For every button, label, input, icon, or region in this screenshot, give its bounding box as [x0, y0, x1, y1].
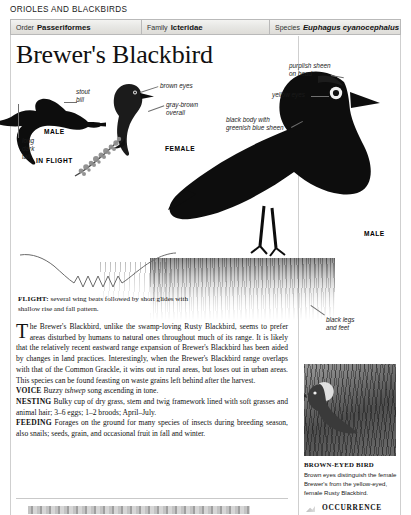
intro-paragraph: The Brewer's Blackbird, unlike the swamp… — [16, 322, 288, 386]
flight-caption: FLIGHT: several wing beats followed by s… — [18, 295, 198, 314]
body-bottom-rule — [16, 498, 288, 499]
taxonomy-order-value: Passeriformes — [37, 23, 91, 32]
leader-line-long-dark-tail — [18, 104, 19, 138]
label-male-in-flight: MALE — [44, 128, 65, 135]
voice-label: VOICE — [16, 386, 42, 395]
voice-pre: Buzzy — [42, 386, 65, 395]
range-map-strip — [28, 506, 250, 514]
label-in-flight: IN FLIGHT — [36, 157, 73, 164]
callout-stout-bill: stout bill — [76, 88, 90, 104]
taxonomy-species-value: Euphagus cyanocephalus — [303, 23, 399, 32]
taxonomy-species-cell: Species Euphagus cyanocephalus — [269, 20, 400, 34]
leader-line-yellow-eyes — [311, 96, 329, 97]
taxonomy-family-label: Family — [147, 24, 168, 31]
nesting-paragraph: NESTING Bulky cup of dry grass, stem and… — [16, 397, 288, 418]
title-left-rule — [10, 36, 11, 100]
callout-long-dark-tail: long dark tail — [22, 137, 34, 162]
feeding-text: Forages on the ground for many species o… — [16, 418, 288, 438]
voice-paragraph: VOICE Buzzy tshwep song ascending in ton… — [16, 386, 288, 397]
taxonomy-species-label: Species — [275, 24, 300, 31]
taxonomy-bar: Order Passeriformes Family Icteridae Spe… — [10, 19, 401, 35]
feeding-label: FEEDING — [16, 418, 52, 427]
callout-black-legs: black legs and feet — [326, 316, 354, 332]
leader-line-stout-bill — [64, 102, 77, 103]
occurrence-heading: OCCURRENCE — [304, 503, 400, 512]
photo-caption-heading: BROWN-EYED BIRD — [304, 461, 374, 468]
flight-pattern-diagram — [18, 252, 178, 292]
nesting-label: NESTING — [16, 397, 51, 406]
flowering-branch-illustration — [73, 132, 143, 180]
species-account-text: The Brewer's Blackbird, unlike the swamp… — [16, 322, 288, 440]
taxonomy-order-label: Order — [16, 24, 34, 31]
running-head: ORIOLES AND BLACKBIRDS — [10, 5, 127, 14]
taxonomy-order-cell: Order Passeriformes — [11, 20, 141, 34]
voice-post: song ascending in tone. — [86, 386, 159, 395]
voice-song-italic: tshwep — [65, 386, 86, 395]
nesting-text: Bulky cup of dry grass, stem and twig fr… — [16, 397, 288, 417]
flight-caption-heading: FLIGHT: — [18, 295, 49, 303]
female-blackbird-photo — [304, 364, 396, 456]
feeding-paragraph: FEEDING Forages on the ground for many s… — [16, 418, 288, 439]
field-guide-page: ORIOLES AND BLACKBIRDS Order Passeriform… — [0, 0, 411, 515]
callout-yellow-eyes: yellow eyes — [272, 91, 305, 99]
callout-purplish-sheen: purplish sheen on head — [289, 62, 331, 78]
callout-black-body: black body with greenish blue sheen — [226, 116, 284, 132]
label-male-perched: MALE — [364, 230, 385, 237]
photo-bird-shape — [306, 380, 366, 436]
photo-caption-body: Brown eyes distinguish the female Brewer… — [304, 471, 400, 497]
taxonomy-family-value: Icteridae — [171, 23, 203, 32]
taxonomy-family-cell: Family Icteridae — [141, 20, 269, 34]
drop-cap: T — [16, 323, 28, 339]
intro-text: he Brewer's Blackbird, unlike the swamp-… — [16, 322, 288, 385]
